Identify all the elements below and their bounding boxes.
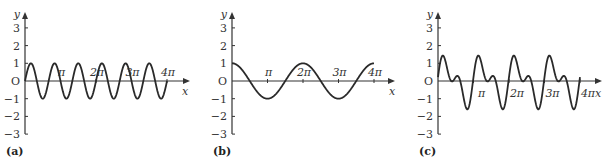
y-axis-label: y [426, 8, 434, 21]
panel-label: (b) [213, 145, 231, 158]
y-tick-label: 1 [220, 57, 227, 70]
y-tick-label: 3 [13, 22, 20, 35]
figure: 321−1−2−3Oyxπ2π3π4π(a) 321−1−2−3Oyxπ2π3π… [0, 0, 606, 165]
x-tick-label: 3π [545, 87, 560, 100]
function-curve [438, 56, 580, 110]
y-tick-label: 3 [220, 22, 227, 35]
y-tick-label: −1 [4, 93, 20, 106]
origin-label: O [218, 75, 227, 88]
x-tick-label: 2π [296, 66, 312, 79]
origin-label: O [11, 75, 20, 88]
panel-label: (c) [419, 145, 436, 158]
y-tick-label: −3 [417, 128, 433, 141]
origin-label: O [424, 75, 433, 88]
y-axis-label: y [13, 8, 21, 21]
y-tick-label: 2 [220, 40, 227, 53]
y-tick-label: −3 [211, 128, 227, 141]
x-tick-label: 2π [509, 87, 525, 100]
x-axis-label: x [595, 87, 602, 100]
x-arrow-icon [388, 78, 395, 84]
x-tick-label: 4π [580, 87, 596, 100]
y-tick-label: −1 [417, 93, 433, 106]
y-tick-label: 3 [426, 22, 433, 35]
x-tick-label: π [264, 66, 273, 79]
panel-a: 321−1−2−3Oyxπ2π3π4π(a) [4, 8, 190, 158]
x-tick-label: π [477, 87, 486, 100]
x-axis-label: x [389, 85, 396, 98]
y-tick-label: −2 [211, 110, 227, 123]
y-axis-label: y [220, 8, 228, 21]
y-arrow-icon [435, 12, 441, 19]
x-tick-label: 3π [332, 66, 347, 79]
x-arrow-icon [183, 78, 190, 84]
panel-c: 321−1−2−3Oyxπ2π3π4π(c) [417, 8, 602, 158]
panel-label: (a) [6, 145, 24, 158]
y-tick-label: −2 [4, 110, 20, 123]
y-tick-label: −3 [4, 128, 20, 141]
y-tick-label: 2 [13, 40, 20, 53]
y-arrow-icon [22, 12, 28, 19]
y-tick-label: −2 [417, 110, 433, 123]
panel-b: 321−1−2−3Oyxπ2π3π4π(b) [211, 8, 396, 158]
y-tick-label: −1 [211, 93, 227, 106]
x-tick-label: 4π [160, 66, 176, 79]
y-tick-label: 1 [426, 57, 433, 70]
y-arrow-icon [229, 12, 235, 19]
y-tick-label: 1 [13, 57, 20, 70]
x-tick-label: 4π [367, 66, 383, 79]
y-tick-label: 2 [426, 40, 433, 53]
x-axis-label: x [182, 85, 189, 98]
x-arrow-icon [595, 78, 602, 84]
